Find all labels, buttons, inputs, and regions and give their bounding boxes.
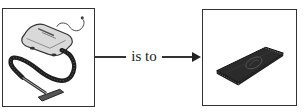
- relation-label: is to: [128, 47, 160, 65]
- vacuum-cleaner-icon: [3, 9, 94, 106]
- analogy-connector: is to: [95, 47, 202, 67]
- left-image-box: [2, 8, 95, 107]
- connector-line-right: [162, 56, 194, 58]
- right-image-box: [202, 9, 297, 106]
- rug-icon: [203, 10, 296, 105]
- arrow-right-icon: [192, 52, 201, 62]
- connector-line-left: [95, 56, 126, 58]
